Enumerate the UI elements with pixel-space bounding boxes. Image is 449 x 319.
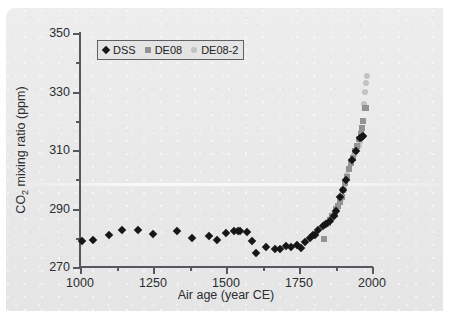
x-tick-label: 1750 bbox=[285, 276, 313, 290]
x-tick-major bbox=[372, 267, 374, 274]
data-point-dss bbox=[133, 226, 141, 234]
y-tick-major bbox=[73, 267, 80, 269]
legend-label: DSS bbox=[113, 45, 136, 56]
square-icon bbox=[145, 47, 151, 53]
x-tick-minor bbox=[190, 267, 192, 271]
y-tick-major bbox=[73, 33, 80, 35]
y-tick-major bbox=[73, 92, 80, 94]
x-tick-minor bbox=[117, 267, 119, 271]
data-point-de08-2 bbox=[364, 73, 370, 79]
data-point-dss bbox=[173, 227, 181, 235]
data-point-dss bbox=[262, 242, 270, 250]
diamond-icon bbox=[102, 46, 110, 54]
data-point-de08 bbox=[360, 118, 366, 124]
x-tick-label: 2000 bbox=[358, 276, 386, 290]
y-tick-minor bbox=[76, 179, 80, 181]
data-point-dss bbox=[247, 236, 255, 244]
data-point-de08-2 bbox=[362, 89, 368, 95]
y-tick-label: 350 bbox=[49, 26, 70, 40]
data-point-de08 bbox=[363, 105, 369, 111]
data-point-dss bbox=[252, 249, 260, 257]
y-axis-title-suffix: mixing ratio (ppm) bbox=[14, 86, 28, 190]
y-tick-major bbox=[73, 150, 80, 152]
y-tick-minor bbox=[76, 121, 80, 123]
y-axis-title-subscript: 2 bbox=[20, 190, 30, 195]
x-tick-minor bbox=[263, 267, 265, 271]
legend-entry-de08-2[interactable]: DE08-2 bbox=[191, 45, 238, 56]
y-tick-label: 310 bbox=[49, 143, 70, 157]
data-point-dss bbox=[187, 234, 195, 242]
legend-entry-de08[interactable]: DE08 bbox=[145, 45, 183, 56]
x-tick-major bbox=[153, 267, 155, 274]
data-point-dss bbox=[118, 226, 126, 234]
figure-root: CO2 mixing ratio (ppm) Air age (year CE)… bbox=[0, 0, 449, 319]
data-point-dss bbox=[89, 236, 97, 244]
x-tick-label: 1000 bbox=[66, 276, 94, 290]
x-tick-major bbox=[226, 267, 228, 274]
y-tick-major bbox=[73, 209, 80, 211]
data-point-dss bbox=[243, 228, 251, 236]
data-point-dss bbox=[104, 231, 112, 239]
data-point-de08 bbox=[359, 125, 365, 131]
legend-label: DE08 bbox=[155, 45, 183, 56]
x-axis-title: Air age (year CE) bbox=[178, 288, 275, 302]
x-tick-label: 1500 bbox=[212, 276, 240, 290]
y-tick-label: 330 bbox=[49, 85, 70, 99]
data-point-dss bbox=[148, 230, 156, 238]
data-point-de08-2 bbox=[363, 80, 369, 86]
x-tick-minor bbox=[336, 267, 338, 271]
plot-area: 270290310330350 10001250150017502000 bbox=[80, 33, 372, 267]
legend-label: DE08-2 bbox=[201, 45, 238, 56]
y-tick-label: 270 bbox=[49, 260, 70, 274]
y-tick-label: 290 bbox=[49, 202, 70, 216]
chart-legend[interactable]: DSSDE08DE08-2 bbox=[97, 40, 244, 60]
x-tick-major bbox=[299, 267, 301, 274]
y-axis-title: CO2 mixing ratio (ppm) bbox=[14, 86, 31, 213]
legend-entry-dss[interactable]: DSS bbox=[103, 45, 136, 56]
x-tick-major bbox=[80, 267, 82, 274]
data-point-de08 bbox=[321, 236, 327, 242]
x-tick-label: 1250 bbox=[139, 276, 167, 290]
y-tick-minor bbox=[76, 62, 80, 64]
circle-icon bbox=[191, 47, 197, 53]
data-point-dss bbox=[212, 236, 220, 244]
y-axis-title-prefix: CO bbox=[14, 195, 28, 214]
data-point-de08 bbox=[346, 166, 352, 172]
